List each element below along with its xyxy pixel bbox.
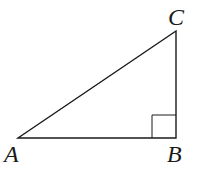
triangle-diagram: A B C [0, 0, 211, 174]
vertex-label-b: B [167, 141, 182, 167]
vertex-label-c: C [168, 4, 185, 30]
vertex-label-a: A [2, 141, 19, 167]
right-angle-marker [152, 115, 176, 138]
